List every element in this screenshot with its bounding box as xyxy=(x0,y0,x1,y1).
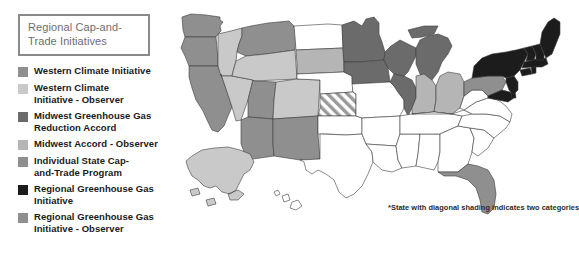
state-CT[interactable] xyxy=(520,68,532,76)
state-SD[interactable] xyxy=(296,48,344,74)
state-AR[interactable] xyxy=(362,116,400,146)
legend-label-rggi: Regional Greenhouse Gas Initiative xyxy=(34,183,154,206)
legend-label-wci: Western Climate Initiative xyxy=(34,65,151,77)
legend-swatch-rggi xyxy=(18,185,28,195)
state-UT[interactable] xyxy=(248,80,276,119)
legend-item-wci-observer[interactable]: Western Climate Initiative - Observer xyxy=(18,82,188,105)
state-AK[interactable] xyxy=(186,147,254,206)
state-OR[interactable] xyxy=(181,37,218,66)
legend-item-rggi[interactable]: Regional Greenhouse Gas Initiative xyxy=(18,183,188,206)
state-CO[interactable] xyxy=(273,79,320,119)
state-OH[interactable] xyxy=(434,72,464,114)
legend-title-box: Regional Cap-and- Trade Initiatives xyxy=(18,14,150,56)
legend-label-midwest-accord: Midwest Greenhouse Gas Reduction Accord xyxy=(34,110,151,133)
legend-swatch-wci xyxy=(18,67,28,77)
map-legend: Regional Cap-and- Trade Initiatives West… xyxy=(18,14,188,239)
state-MT[interactable] xyxy=(237,21,296,56)
state-OK[interactable] xyxy=(318,116,362,135)
state-MN[interactable] xyxy=(342,17,385,62)
state-WA[interactable] xyxy=(182,14,223,37)
map-footnote: *State with diagonal shading indicates t… xyxy=(388,203,579,212)
legend-swatch-midwest-observer xyxy=(18,140,28,150)
state-AL[interactable] xyxy=(416,134,440,170)
legend-item-individual-state[interactable]: Individual State Cap- and-Trade Program xyxy=(18,155,188,178)
legend-swatch-individual-state xyxy=(18,157,28,167)
legend-item-midwest-accord[interactable]: Midwest Greenhouse Gas Reduction Accord xyxy=(18,110,188,133)
legend-items: Western Climate Initiative Western Clima… xyxy=(18,65,188,234)
state-shapes xyxy=(181,14,560,214)
legend-item-rggi-observer[interactable]: Regional Greenhouse Gas Initiative - Obs… xyxy=(18,211,188,234)
legend-swatch-wci-observer xyxy=(18,84,28,94)
legend-swatch-rggi-observer xyxy=(18,213,28,223)
state-ND[interactable] xyxy=(294,24,343,50)
legend-label-individual-state: Individual State Cap- and-Trade Program xyxy=(34,155,129,178)
state-KS[interactable] xyxy=(318,92,356,116)
legend-label-midwest-observer: Midwest Accord - Observer xyxy=(34,138,158,150)
legend-label-wci-observer: Western Climate Initiative - Observer xyxy=(34,82,124,105)
legend-title: Regional Cap-and- Trade Initiatives xyxy=(28,21,140,48)
legend-swatch-midwest-accord xyxy=(18,112,28,122)
state-WY[interactable] xyxy=(232,50,297,81)
state-HI[interactable] xyxy=(274,190,302,210)
state-WI[interactable] xyxy=(384,40,416,76)
state-NM[interactable] xyxy=(273,116,320,160)
legend-item-wci[interactable]: Western Climate Initiative xyxy=(18,65,188,77)
legend-label-rggi-observer: Regional Greenhouse Gas Initiative - Obs… xyxy=(34,211,154,234)
us-choropleth-map xyxy=(176,4,564,224)
legend-item-midwest-observer[interactable]: Midwest Accord - Observer xyxy=(18,138,188,150)
state-ME[interactable] xyxy=(540,18,560,58)
state-NY[interactable] xyxy=(472,48,528,78)
